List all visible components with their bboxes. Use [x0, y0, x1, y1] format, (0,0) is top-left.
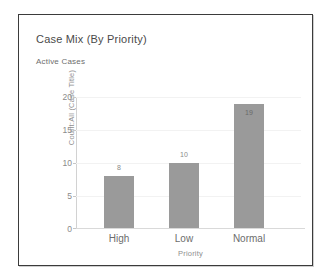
gridline [76, 130, 301, 131]
x-tick-label-normal: Normal [214, 233, 284, 244]
bar-value-label: 8 [99, 164, 139, 171]
bar-value-label: 10 [164, 151, 204, 158]
y-tick-label: 0 [67, 224, 72, 234]
x-axis-line [76, 228, 305, 229]
y-tick-label: 5 [67, 191, 72, 201]
chart-subtitle: Active Cases [36, 57, 85, 66]
y-tick-label: 15 [63, 125, 72, 135]
y-tick-label: 20 [63, 92, 72, 102]
chart-card[interactable]: Case Mix (By Priority) Active Cases Coun… [18, 14, 313, 266]
bar-low[interactable]: 10 [169, 163, 199, 228]
x-tick-label-low: Low [149, 233, 219, 244]
bar-value-label: 19 [229, 109, 269, 116]
bar-high[interactable]: 8 [104, 176, 134, 228]
x-tick-label-high: High [84, 233, 154, 244]
y-axis-tick-labels: 20 15 10 5 0 [50, 97, 72, 229]
page-title: Case Mix (By Priority) [36, 33, 147, 45]
bar-normal[interactable]: 19 [234, 104, 264, 228]
plot-area: 8 10 19 [76, 97, 301, 228]
chart-screenshot: Case Mix (By Priority) Active Cases Coun… [0, 0, 335, 279]
gridline [76, 97, 301, 98]
x-axis-title: Priority [76, 249, 305, 258]
y-tick-label: 10 [63, 158, 72, 168]
